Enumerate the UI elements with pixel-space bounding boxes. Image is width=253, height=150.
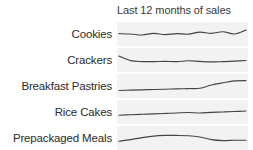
sparkline-cookies-svg (117, 22, 248, 46)
row-label-rice-cakes: Rice Cakes (0, 106, 112, 119)
sparkline-prepackaged-meals-svg (117, 126, 248, 150)
sparkline-prepackaged-meals (117, 126, 248, 150)
sparkline-panel: Last 12 months of sales Cookies Crackers… (0, 0, 253, 150)
spark-row-cookies: Cookies (0, 22, 253, 46)
sparkline-cookies-path (119, 30, 246, 35)
sparkline-breakfast-pastries (117, 74, 248, 98)
row-label-cookies: Cookies (0, 28, 112, 41)
spark-row-crackers: Crackers (0, 48, 253, 72)
sparkline-rice-cakes-svg (117, 100, 248, 124)
spark-row-breakfast-pastries: Breakfast Pastries (0, 74, 253, 98)
chart-title: Last 12 months of sales (117, 4, 231, 17)
sparkline-breakfast-pastries-path (119, 81, 246, 91)
sparkline-rice-cakes (117, 100, 248, 124)
sparkline-prepackaged-meals-path (119, 135, 246, 141)
row-label-prepackaged-meals: Prepackaged Meals (0, 132, 112, 145)
sparkline-crackers-svg (117, 48, 248, 72)
spark-row-prepackaged-meals: Prepackaged Meals (0, 126, 253, 150)
sparkline-crackers-path (119, 56, 246, 62)
sparkline-crackers (117, 48, 248, 72)
sparkline-cookies (117, 22, 248, 46)
sparkline-rice-cakes-path (119, 111, 246, 115)
row-label-breakfast-pastries: Breakfast Pastries (0, 80, 112, 93)
row-label-crackers: Crackers (0, 54, 112, 67)
sparkline-breakfast-pastries-svg (117, 74, 248, 98)
spark-row-rice-cakes: Rice Cakes (0, 100, 253, 124)
